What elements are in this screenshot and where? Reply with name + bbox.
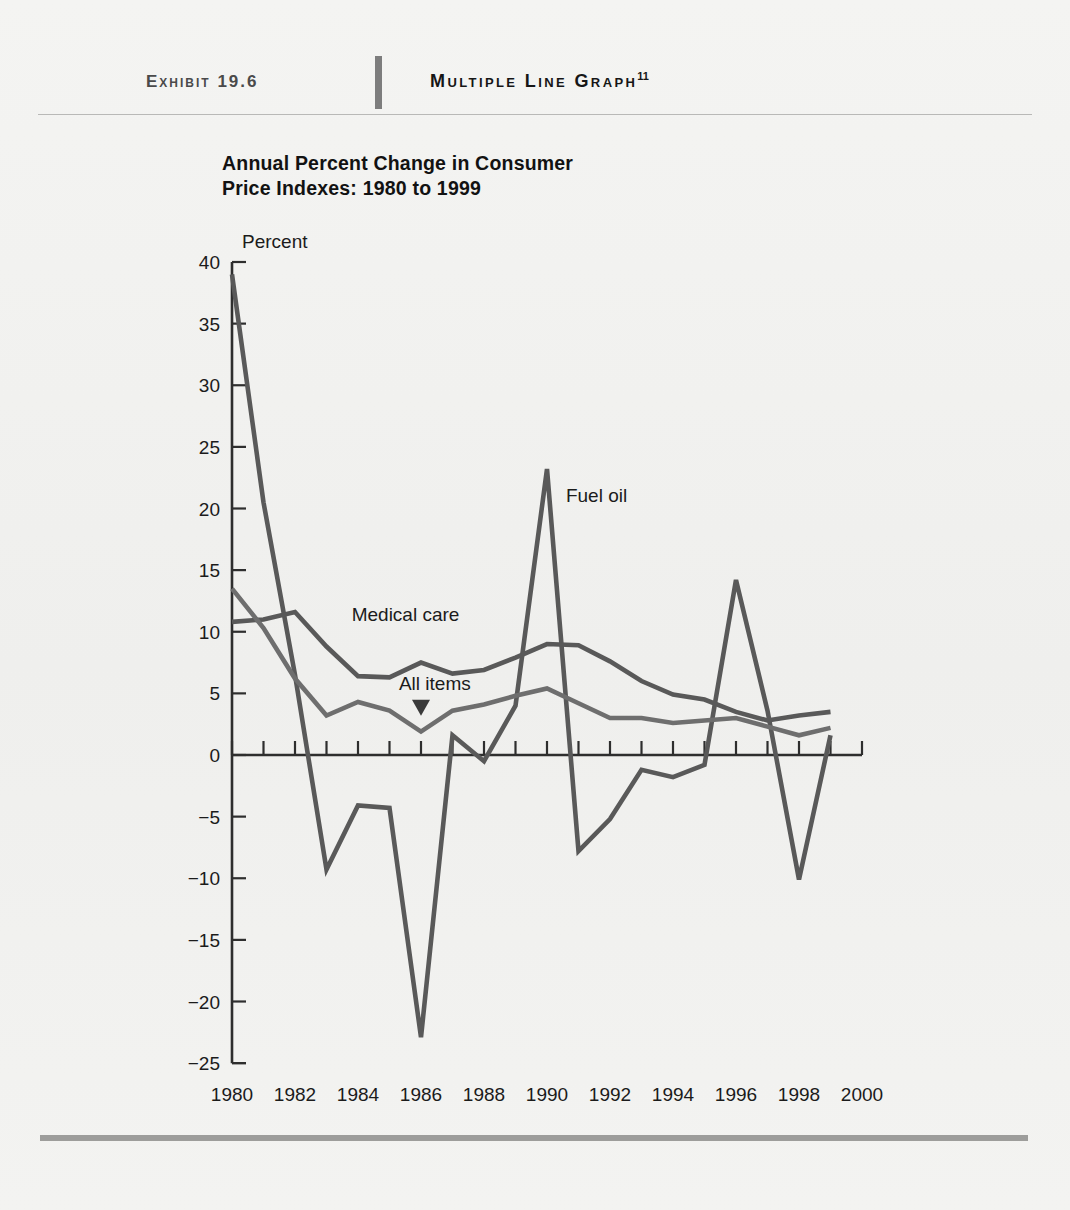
header-rule (38, 114, 1032, 115)
exhibit-title: Multiple Line Graph11 (430, 70, 649, 92)
exhibit-number-label: Exhibit 19.6 (146, 72, 258, 92)
header-divider (375, 56, 382, 109)
footer-rule (40, 1135, 1028, 1141)
exhibit-title-text: Multiple Line Graph (430, 71, 637, 91)
exhibit-header: Exhibit 19.6 Multiple Line Graph11 (0, 54, 1070, 116)
exhibit-title-footnote: 11 (637, 70, 649, 82)
chart-title: Annual Percent Change in Consumer Price … (222, 151, 573, 201)
